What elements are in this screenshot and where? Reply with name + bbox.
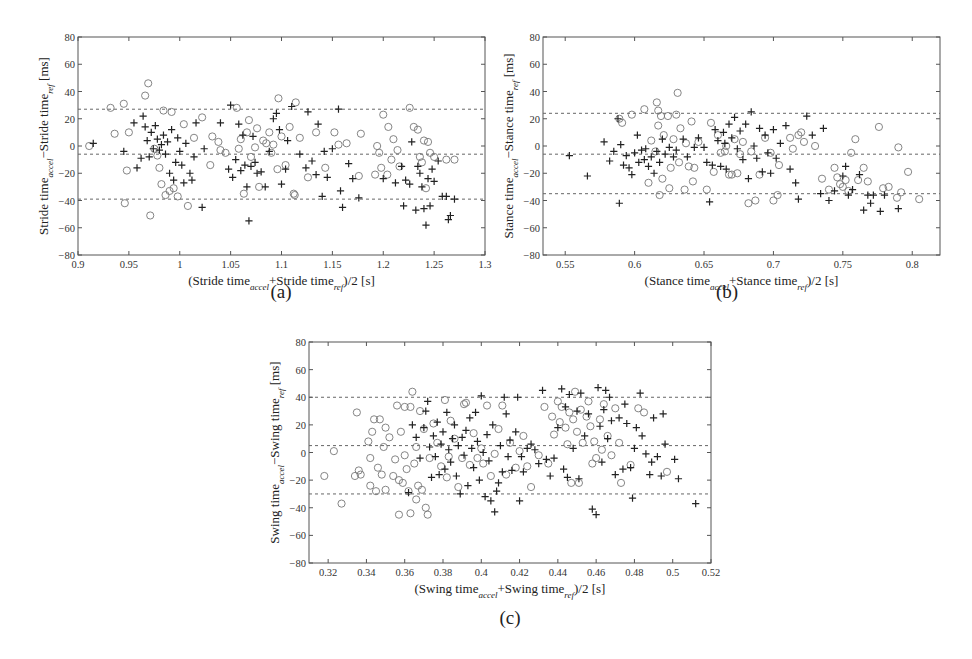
panel-label: (c) bbox=[499, 607, 520, 629]
y-tick-label: 40 bbox=[65, 87, 76, 98]
y-tick-label: 80 bbox=[65, 32, 76, 43]
x-tick-label: 1.15 bbox=[323, 259, 341, 270]
x-tick-label: 0.7 bbox=[767, 259, 780, 270]
y-tick-label: 0 bbox=[535, 141, 540, 152]
plot-frame bbox=[78, 37, 485, 255]
x-tick-label: 0.36 bbox=[396, 567, 414, 578]
x-axis-label: (Swing timeaccel+Swing timeref)/2 [s] bbox=[415, 581, 606, 600]
y-tick-label: 20 bbox=[530, 114, 541, 125]
x-tick-label: 0.6 bbox=[628, 259, 641, 270]
y-tick-label: 0 bbox=[301, 448, 306, 459]
y-tick-label: −20 bbox=[59, 168, 75, 179]
x-tick-label: 0.65 bbox=[695, 259, 713, 270]
y-axis-label: Stance timeaccel−Stance timeref [ms] bbox=[501, 53, 520, 238]
x-tick-label: 0.55 bbox=[556, 259, 574, 270]
y-tick-label: 0 bbox=[70, 141, 75, 152]
x-tick-label: 0.52 bbox=[702, 567, 720, 578]
y-tick-label: −40 bbox=[290, 503, 306, 514]
y-tick-label: −60 bbox=[290, 530, 306, 541]
y-tick-label: −60 bbox=[59, 223, 75, 234]
y-tick-label: −80 bbox=[59, 250, 75, 261]
x-tick-label: 1.2 bbox=[377, 259, 390, 270]
x-tick-label: 0.5 bbox=[666, 567, 679, 578]
x-tick-label: 0.32 bbox=[319, 567, 337, 578]
panel-label: (a) bbox=[270, 281, 291, 303]
x-tick-label: 1.3 bbox=[478, 259, 491, 270]
y-tick-label: 80 bbox=[296, 337, 307, 348]
panel-label: (b) bbox=[716, 281, 738, 303]
y-tick-label: −60 bbox=[524, 223, 540, 234]
x-tick-label: 1.1 bbox=[275, 259, 288, 270]
y-tick-label: −20 bbox=[290, 475, 306, 486]
y-tick-label: −80 bbox=[290, 558, 306, 569]
y-axis-label: Stride timeaccel−Stride timeref [ms] bbox=[36, 57, 55, 235]
x-tick-label: 0.4 bbox=[475, 567, 489, 578]
figure-canvas: 0.90.9511.051.11.151.21.251.3−80−60−40−2… bbox=[0, 0, 972, 659]
x-tick-label: 0.95 bbox=[120, 259, 138, 270]
y-tick-label: 80 bbox=[530, 32, 541, 43]
x-tick-label: 0.42 bbox=[510, 567, 528, 578]
y-tick-label: −40 bbox=[524, 196, 540, 207]
x-tick-label: 0.75 bbox=[834, 259, 852, 270]
x-tick-label: 0.48 bbox=[625, 567, 643, 578]
x-tick-label: 1.25 bbox=[425, 259, 443, 270]
x-tick-label: 1 bbox=[177, 259, 182, 270]
y-tick-label: 20 bbox=[296, 420, 307, 431]
x-tick-label: 1.05 bbox=[221, 259, 239, 270]
panel-c-swing-time-bland-altman: 0.320.340.360.380.40.420.440.460.480.50.… bbox=[267, 337, 720, 629]
y-tick-label: 60 bbox=[65, 59, 76, 70]
y-tick-label: 60 bbox=[296, 365, 307, 376]
y-tick-label: 40 bbox=[530, 87, 541, 98]
x-tick-label: 0.8 bbox=[906, 259, 919, 270]
panel-b-stance-time-bland-altman: 0.550.60.650.70.750.8−80−60−40−200204060… bbox=[501, 32, 940, 303]
panel-a-stride-time-bland-altman: 0.90.9511.051.11.151.21.251.3−80−60−40−2… bbox=[36, 32, 492, 303]
plot-frame bbox=[543, 37, 940, 255]
x-tick-label: 0.34 bbox=[357, 567, 376, 578]
x-tick-label: 0.44 bbox=[549, 567, 568, 578]
y-tick-label: −40 bbox=[59, 196, 75, 207]
x-tick-label: 0.46 bbox=[587, 567, 605, 578]
x-tick-label: 0.38 bbox=[434, 567, 452, 578]
plot-frame bbox=[309, 342, 711, 563]
y-tick-label: −80 bbox=[524, 250, 540, 261]
y-tick-label: 60 bbox=[530, 59, 541, 70]
y-tick-label: −20 bbox=[524, 168, 540, 179]
y-tick-label: 20 bbox=[65, 114, 76, 125]
x-axis-label: (Stance timeaccel+Stance timeref)/2 [s] bbox=[645, 273, 839, 292]
y-axis-label: Swing timeaccel−Swing timeref [ms] bbox=[267, 361, 286, 543]
y-tick-label: 40 bbox=[296, 392, 307, 403]
